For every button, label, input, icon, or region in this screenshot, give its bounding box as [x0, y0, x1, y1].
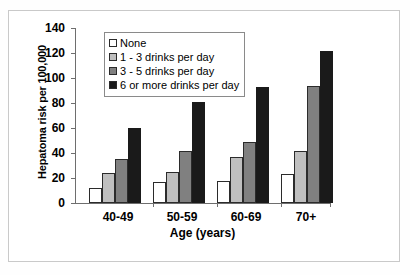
x-tick-4 — [330, 203, 331, 207]
y-tick-label-20: 20 — [52, 171, 65, 185]
chart-legend: None 1 - 3 drinks per day 3 - 5 drinks p… — [104, 32, 245, 97]
bar-60-69-1-3[interactable] — [230, 157, 243, 203]
bar-70-plus-1-3[interactable] — [294, 151, 307, 204]
bar-60-69-6-or-more[interactable] — [256, 87, 269, 203]
x-tick-label-70-plus: 70+ — [271, 210, 341, 224]
bar-50-59-3-5[interactable] — [179, 151, 192, 204]
y-axis-line — [75, 28, 76, 204]
x-axis-line — [75, 203, 330, 204]
y-tick-100 — [71, 78, 75, 79]
bar-40-49-6-or-more[interactable] — [128, 128, 141, 203]
x-tick-label-40-49: 40-49 — [83, 210, 153, 224]
x-axis-title: Age (years) — [75, 226, 330, 240]
legend-label-3-5-drinks: 3 - 5 drinks per day — [120, 66, 214, 77]
y-tick-label-0: 0 — [58, 196, 65, 210]
y-tick-0 — [71, 203, 75, 204]
bar-70-plus-6-or-more[interactable] — [320, 51, 333, 204]
y-tick-20 — [71, 178, 75, 179]
legend-swatch-none-icon — [109, 39, 117, 47]
y-tick-label-80: 80 — [52, 96, 65, 110]
y-tick-label-100: 100 — [45, 71, 65, 85]
chart-figure: Hepatoma risk per 100,000 140 120 100 80… — [0, 0, 410, 275]
y-tick-120 — [71, 53, 75, 54]
bar-50-59-6-or-more[interactable] — [192, 102, 205, 203]
bar-50-59-none[interactable] — [153, 182, 166, 203]
y-tick-60 — [71, 128, 75, 129]
y-tick-label-60: 60 — [52, 121, 65, 135]
legend-swatch-1-3-icon — [109, 53, 117, 61]
bar-40-49-3-5[interactable] — [115, 159, 128, 203]
bar-70-plus-3-5[interactable] — [307, 86, 320, 204]
bar-60-69-none[interactable] — [217, 181, 230, 204]
legend-label-none: None — [120, 38, 146, 49]
bar-70-plus-none[interactable] — [281, 174, 294, 203]
x-tick-2 — [217, 203, 218, 207]
bar-40-49-none[interactable] — [89, 188, 102, 203]
y-tick-80 — [71, 103, 75, 104]
bar-60-69-3-5[interactable] — [243, 142, 256, 203]
y-tick-label-40: 40 — [52, 146, 65, 160]
y-tick-label-120: 120 — [45, 46, 65, 60]
bar-group-70-plus — [281, 28, 339, 203]
x-tick-label-50-59: 50-59 — [147, 210, 217, 224]
legend-item-6-or-more-drinks[interactable]: 6 or more drinks per day — [109, 78, 239, 92]
x-tick-3 — [281, 203, 282, 207]
legend-item-1-3-drinks[interactable]: 1 - 3 drinks per day — [109, 50, 239, 64]
x-tick-1 — [153, 203, 154, 207]
legend-swatch-6-or-more-icon — [109, 81, 117, 89]
y-tick-label-140: 140 — [45, 21, 65, 35]
legend-label-1-3-drinks: 1 - 3 drinks per day — [120, 52, 214, 63]
legend-item-3-5-drinks[interactable]: 3 - 5 drinks per day — [109, 64, 239, 78]
legend-label-6-or-more-drinks: 6 or more drinks per day — [120, 80, 239, 91]
legend-item-none[interactable]: None — [109, 36, 239, 50]
y-tick-40 — [71, 153, 75, 154]
figure-frame: Hepatoma risk per 100,000 140 120 100 80… — [8, 10, 400, 262]
bar-40-49-1-3[interactable] — [102, 173, 115, 203]
y-tick-140 — [71, 28, 75, 29]
legend-swatch-3-5-icon — [109, 67, 117, 75]
bar-50-59-1-3[interactable] — [166, 172, 179, 203]
